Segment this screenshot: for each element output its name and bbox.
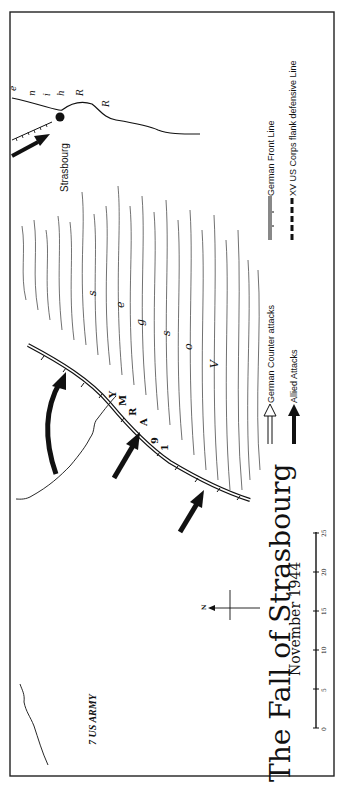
scale-tick-25: 25 [320, 529, 327, 537]
rhine-letter-e: e [8, 86, 18, 91]
map-subtitle: November 1944 [287, 562, 303, 676]
rhine-letter-h: h [56, 90, 66, 96]
legend-label-xv-corps: XV US Corps flank defensive Line [288, 60, 298, 196]
army19-letter-9: 9 [149, 437, 160, 444]
rhine-letter-r2: R [75, 89, 85, 97]
tributary-river [16, 396, 116, 499]
scale-tick-10: 10 [320, 646, 327, 654]
north-label: N [200, 604, 207, 610]
rhine-letter-n: n [27, 90, 37, 96]
vosges-letter-o: o [182, 343, 195, 350]
vosges-terrain [22, 186, 260, 490]
legend-label-german-counter: German Counter attacks [266, 304, 276, 403]
vosges-letter-g: g [134, 319, 147, 326]
vosges-letter-s1: s [160, 330, 173, 336]
north-arrow: N [200, 590, 260, 620]
scale-tick-5: 5 [320, 688, 327, 692]
seventh-army-label: 7 US ARMY [87, 693, 98, 745]
legend-allied-attacks: Allied Attacks [288, 349, 300, 444]
strasbourg-city-marker [56, 113, 65, 122]
strasbourg-label: Strasbourg [59, 143, 70, 192]
army19-letter-r: R [127, 407, 138, 416]
legend-xv-corps-line: XV US Corps flank defensive Line [288, 60, 298, 240]
army19-letter-1: 1 [159, 444, 170, 451]
vosges-letter-s2: s [86, 290, 99, 296]
legend: German Counter attacks Allied Attacks Ge… [264, 60, 300, 444]
scale-tick-0: 0 [320, 727, 327, 731]
seventh-army-boundary [20, 684, 48, 765]
scale-bar: 0 5 10 15 20 25 [313, 529, 327, 731]
vosges-letter-v: V [208, 359, 221, 368]
army19-letter-a: A [138, 418, 149, 427]
army19-letter-m: M [117, 395, 128, 406]
strasbourg-map: R R h i n e Strasbourg [0, 0, 356, 789]
allied-arrow-south [180, 490, 204, 532]
legend-label-german-front: German Front Line [266, 120, 276, 196]
allied-arrow-curved [47, 372, 66, 474]
rhine-letter-i: i [42, 93, 52, 96]
rhine-letter-r1: R [101, 100, 111, 108]
legend-german-front-line: German Front Line [266, 120, 276, 240]
vosges-letter-e: e [114, 301, 127, 308]
scale-tick-15: 15 [320, 607, 327, 615]
army19-letter-y: Y [107, 390, 118, 399]
legend-label-allied: Allied Attacks [289, 349, 299, 403]
legend-german-counter-attacks: German Counter attacks [264, 304, 276, 444]
scale-tick-20: 20 [320, 568, 327, 576]
